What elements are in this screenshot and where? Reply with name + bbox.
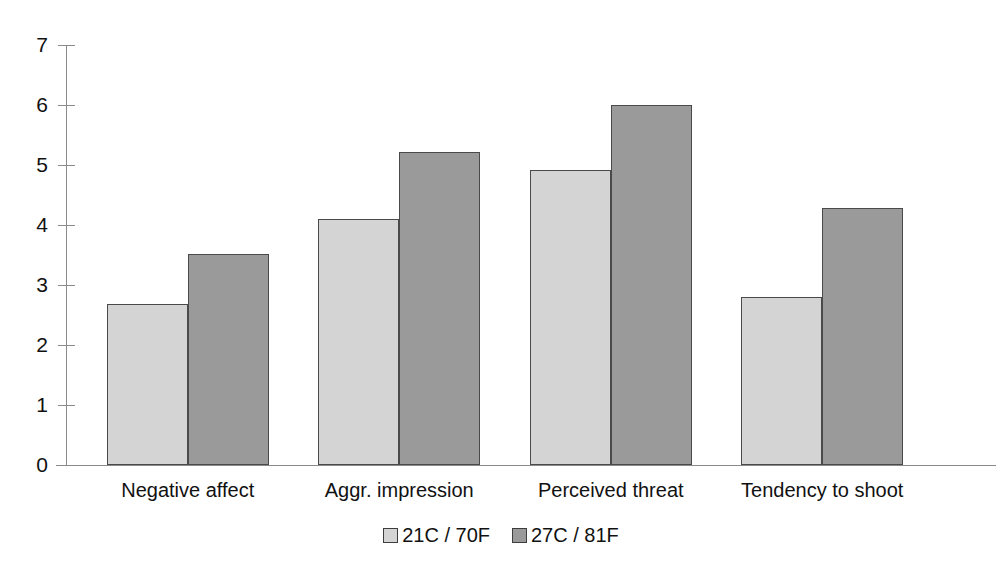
bar	[611, 105, 692, 465]
y-axis-tick-label: 7	[0, 34, 48, 55]
x-axis-line	[56, 465, 996, 466]
legend-label: 21C / 70F	[402, 524, 490, 546]
y-axis-tick-label: 3	[0, 274, 48, 295]
bar	[318, 219, 399, 465]
bar	[530, 170, 611, 465]
legend-item[interactable]: 21C / 70F	[383, 524, 490, 546]
y-axis-tick-label: 4	[0, 214, 48, 235]
legend-swatch-icon	[512, 528, 527, 543]
y-axis-tick-label: 2	[0, 334, 48, 355]
bar-chart: 01234567 Negative affectAggr. impression…	[0, 0, 1002, 569]
bar	[107, 304, 188, 465]
bar	[822, 208, 903, 465]
y-axis-tick-label: 5	[0, 154, 48, 175]
legend-label: 27C / 81F	[531, 524, 619, 546]
y-axis-tick-label: 6	[0, 94, 48, 115]
bar	[741, 297, 822, 465]
bar	[399, 152, 480, 465]
y-axis-tick-label: 0	[0, 454, 48, 475]
bar	[188, 254, 269, 465]
y-axis-tick	[58, 465, 75, 466]
y-axis-tick-label: 1	[0, 394, 48, 415]
legend-swatch-icon	[383, 528, 398, 543]
x-axis-category-label: Tendency to shoot	[692, 478, 952, 502]
chart-legend: 21C / 70F27C / 81F	[0, 524, 1002, 546]
plot-area	[66, 45, 986, 465]
legend-item[interactable]: 27C / 81F	[512, 524, 619, 546]
